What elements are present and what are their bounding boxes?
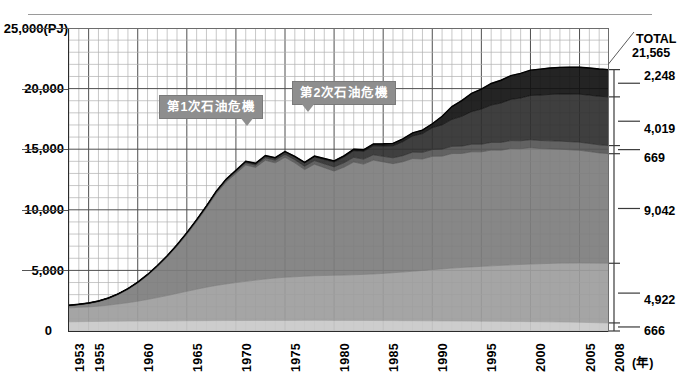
x-tick-label-1965: 1965	[191, 343, 205, 372]
plot-area	[68, 28, 609, 332]
x-tick-label-1953: 1953	[73, 343, 87, 372]
segment-value-4922: 4,922	[644, 294, 675, 307]
x-tick-label-2000: 2000	[534, 343, 548, 372]
segment-value-4019: 4,019	[644, 123, 675, 136]
total-value: 21,565	[632, 46, 670, 60]
callout-tail-icon	[301, 103, 315, 112]
chart-figure: 25,000(PJ) 20,000 15,000 10,000 5,000 0 …	[0, 0, 680, 391]
segment-value-2248: 2,248	[644, 70, 675, 83]
top-divider-rule	[28, 14, 652, 15]
x-tick-label-1990: 1990	[436, 343, 450, 372]
y-tick-rule-20000	[22, 89, 68, 90]
annotation-second-oil-crisis: 第2次石油危機	[293, 82, 395, 104]
bracket-lines	[608, 14, 680, 364]
total-caption: TOTAL	[636, 32, 677, 46]
x-tick-label-1955: 1955	[93, 343, 107, 372]
annotation-second-oil-crisis-label: 第2次石油危機	[300, 86, 388, 100]
stacked-area-series	[69, 28, 609, 331]
x-tick-label-1970: 1970	[240, 343, 254, 372]
annotation-first-oil-crisis: 第1次石油危機	[160, 96, 262, 118]
y-tick-rule-15000	[22, 149, 68, 150]
segment-value-669: 669	[644, 152, 665, 165]
x-tick-label-1980: 1980	[338, 343, 352, 372]
segment-value-9042: 9,042	[644, 205, 675, 218]
y-tick-rule-10000	[22, 210, 68, 211]
y-tick-label-0: 0	[45, 324, 52, 337]
y-tick-rule-25000	[22, 28, 68, 29]
y-axis: 25,000(PJ) 20,000 15,000 10,000 5,000 0	[0, 0, 68, 391]
callout-tail-icon	[240, 117, 254, 126]
x-tick-label-1995: 1995	[485, 343, 499, 372]
segment-legend-bracket: TOTAL 21,565 2,248 4,019 669 9,042 4,922…	[608, 14, 680, 364]
segment-value-666: 666	[644, 325, 665, 338]
x-tick-label-1985: 1985	[387, 343, 401, 372]
x-tick-label-2005: 2005	[584, 343, 598, 372]
y-tick-rule-5000	[22, 270, 68, 271]
x-tick-label-1975: 1975	[289, 343, 303, 372]
x-tick-label-1960: 1960	[142, 343, 156, 372]
annotation-first-oil-crisis-label: 第1次石油危機	[167, 100, 255, 114]
